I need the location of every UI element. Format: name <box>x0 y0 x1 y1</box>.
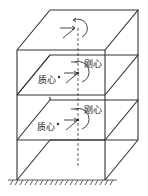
center-of-rigidity-marker <box>77 119 79 121</box>
structure-torsion-diagram: 刚心 质心 刚心 质心 <box>0 0 148 196</box>
label-center-of-rigidity-1: 刚心 <box>84 105 102 115</box>
frame-lines <box>17 10 138 180</box>
center-of-rigidity-marker <box>77 72 79 74</box>
label-center-of-rigidity-2: 刚心 <box>84 59 102 69</box>
center-of-mass-marker <box>58 76 60 78</box>
center-of-mass-marker <box>57 123 59 125</box>
ground-hatch-icon <box>8 180 117 185</box>
label-center-of-mass-1: 质心 <box>37 121 55 132</box>
torsion-arrow-icon <box>60 18 87 38</box>
label-center-of-mass-2: 质心 <box>38 74 56 85</box>
